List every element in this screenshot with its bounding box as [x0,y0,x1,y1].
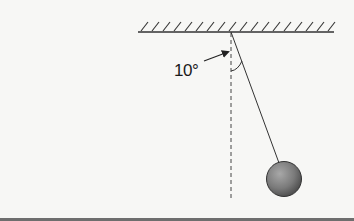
bottom-border [0,218,354,221]
hatched-ceiling [138,22,335,32]
angle-arc [231,61,242,71]
pendulum-string [231,32,279,163]
pendulum-bob [267,162,302,197]
angle-pointer-arrow [204,52,228,61]
angle-label: 10° [174,61,198,81]
pendulum-diagram [0,0,354,221]
